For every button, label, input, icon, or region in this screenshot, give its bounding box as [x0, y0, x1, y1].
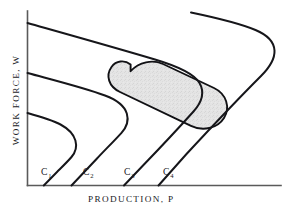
- chart-svg: C 1 C 2 C 3 C 4 PRODUCTION, P WORK: [0, 0, 293, 210]
- curve-label-c2-subscript: 2: [90, 172, 93, 179]
- curve-label-c1: C 1: [41, 166, 51, 179]
- y-axis-title: WORK FORCE, W: [11, 55, 21, 146]
- curve-label-c1-subscript: 1: [48, 172, 51, 179]
- curve-label-c4: C 4: [163, 166, 174, 179]
- curve-c1: [28, 113, 77, 186]
- curve-label-c1-base: C: [41, 166, 47, 177]
- curve-label-c2-base: C: [83, 166, 89, 177]
- curve-label-c3: C 3: [124, 166, 135, 179]
- figure-container: C 1 C 2 C 3 C 4 PRODUCTION, P WORK: [0, 0, 293, 210]
- curve-label-c4-subscript: 4: [170, 172, 174, 179]
- x-axis-title: PRODUCTION, P: [88, 194, 174, 204]
- curve-label-c2: C 2: [83, 166, 93, 179]
- curve-label-c4-base: C: [163, 166, 169, 177]
- curve-label-c3-base: C: [124, 166, 130, 177]
- shaded-operating-region: [108, 61, 227, 128]
